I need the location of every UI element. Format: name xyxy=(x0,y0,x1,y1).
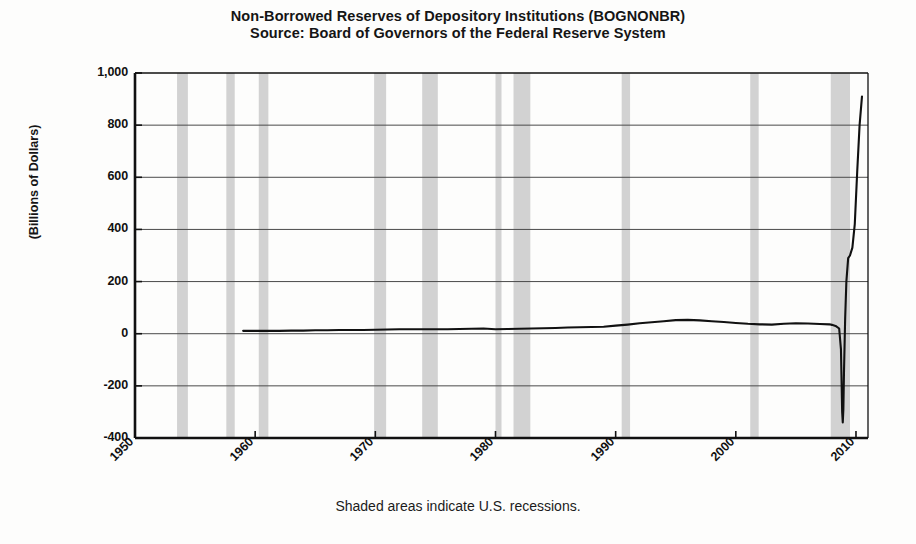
y-tick-label: 1,000 xyxy=(58,65,128,79)
recession-band xyxy=(259,73,269,438)
y-tick-label: 800 xyxy=(58,117,128,131)
y-tick-label: 200 xyxy=(58,274,128,288)
recession-band xyxy=(226,73,234,438)
data-series-group xyxy=(243,96,862,422)
plot-canvas xyxy=(0,0,916,544)
y-axis-label: (Billions of Dollars) xyxy=(27,82,41,282)
recession-band xyxy=(374,73,386,438)
y-tick-label: 600 xyxy=(58,169,128,183)
recession-band xyxy=(750,73,758,438)
recession-band xyxy=(495,73,501,438)
recession-band xyxy=(514,73,531,438)
chart-title-block: Non-Borrowed Reserves of Depository Inst… xyxy=(0,8,916,42)
y-tick-label: -200 xyxy=(58,378,128,392)
data-series-line xyxy=(243,96,862,422)
chart-figure: Non-Borrowed Reserves of Depository Inst… xyxy=(0,0,916,544)
recession-band xyxy=(831,73,850,438)
y-tick-label: 400 xyxy=(58,221,128,235)
recession-band xyxy=(177,73,188,438)
chart-title: Non-Borrowed Reserves of Depository Inst… xyxy=(0,8,916,25)
chart-footnote: Shaded areas indicate U.S. recessions. xyxy=(0,498,916,514)
recession-band xyxy=(422,73,438,438)
recession-band xyxy=(622,73,630,438)
recession-bands-group xyxy=(177,73,850,438)
y-tick-label: 0 xyxy=(58,326,128,340)
chart-subtitle: Source: Board of Governors of the Federa… xyxy=(0,25,916,42)
